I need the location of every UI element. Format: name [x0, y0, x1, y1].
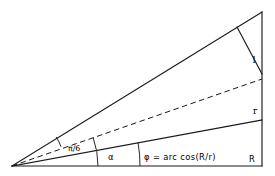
label-segment-r: r	[253, 106, 258, 116]
geometry-diagram-canvas: π/6 α φ = arc cos(R/r) l r R	[0, 0, 275, 176]
dashed-ray-segment	[12, 79, 262, 166]
arc-phi	[138, 142, 140, 166]
label-segment-l: l	[253, 55, 256, 65]
geometry-figure: π/6 α φ = arc cos(R/r) l r R	[0, 0, 275, 176]
arc-alpha	[93, 137, 98, 166]
label-angle-pi-over-6: π/6	[68, 144, 80, 153]
label-segment-R: R	[249, 154, 255, 164]
label-angle-alpha: α	[108, 152, 114, 162]
arc-pi-over-6	[56, 137, 61, 147]
perpendicular-segment	[237, 27, 262, 74]
label-angle-phi-formula: φ = arc cos(R/r)	[144, 152, 216, 162]
